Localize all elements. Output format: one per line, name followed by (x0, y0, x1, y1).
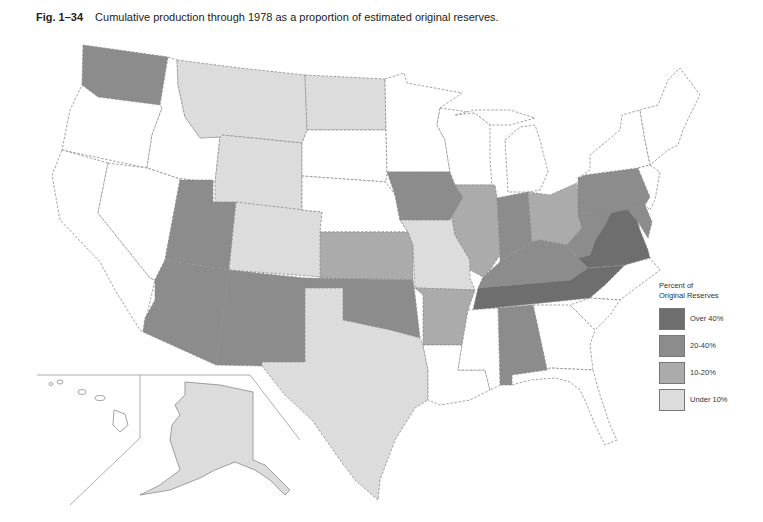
state-ohio (528, 183, 582, 245)
state-wyoming (215, 135, 302, 210)
state-kansas (320, 232, 413, 280)
legend-item-over40: Over 40% (659, 305, 759, 332)
legend-label: Over 40% (690, 314, 723, 323)
legend-label: 20-40% (690, 341, 716, 350)
state-south-dakota (302, 130, 387, 182)
legend-item-20to40: 20-40% (659, 332, 759, 359)
legend-swatch (659, 335, 685, 357)
legend-label: Under 10% (690, 395, 728, 404)
state-north-dakota (305, 75, 386, 130)
map-legend: Percent of Original Reserves Over 40% 20… (659, 281, 759, 413)
state-michigan-lower (505, 125, 548, 192)
state-florida (512, 368, 617, 445)
region-new-england (640, 68, 700, 165)
legend-swatch (659, 308, 685, 330)
us-choropleth-map (0, 0, 763, 522)
legend-heading: Percent of Original Reserves (659, 281, 759, 301)
state-new-mexico (216, 270, 305, 366)
legend-swatch (659, 389, 685, 411)
state-alaska (140, 382, 290, 495)
state-hawaii (49, 380, 128, 432)
legend-heading-line1: Percent of (659, 281, 759, 291)
inset-frame (37, 375, 300, 440)
legend-item-10to20: 10-20% (659, 359, 759, 386)
legend-item-under10: Under 10% (659, 386, 759, 413)
legend-swatch (659, 362, 685, 384)
legend-label: 10-20% (690, 368, 716, 377)
state-montana (177, 60, 307, 143)
state-colorado (229, 202, 322, 277)
legend-heading-line2: Original Reserves (659, 291, 759, 301)
